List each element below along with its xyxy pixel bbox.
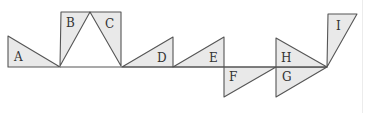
triangle-label-i: I: [336, 19, 341, 33]
triangle-i: [327, 14, 357, 67]
triangle-label-b: B: [66, 16, 75, 30]
triangle-label-h: H: [281, 51, 291, 65]
triangle-diagram: ABCDEFGHI: [0, 0, 367, 113]
triangle-label-d: D: [157, 51, 167, 65]
triangle-b: [60, 12, 90, 66]
triangle-label-e: E: [209, 51, 218, 65]
triangle-label-f: F: [229, 70, 237, 84]
triangle-label-c: C: [105, 17, 114, 31]
triangle-label-a: A: [13, 50, 23, 64]
triangles-group: [8, 12, 357, 97]
triangle-label-g: G: [282, 70, 292, 84]
